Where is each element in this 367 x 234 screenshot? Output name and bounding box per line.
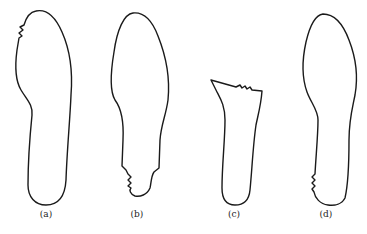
insole-outline-d xyxy=(303,14,356,205)
panel-label-b: (b) xyxy=(131,209,144,219)
insole-outline-b xyxy=(111,13,168,196)
insole-outline-c xyxy=(211,80,262,205)
panel-label-a: (a) xyxy=(40,209,52,219)
insole-outline-a xyxy=(16,11,72,205)
figure-canvas xyxy=(0,0,367,234)
panel-label-c: (c) xyxy=(228,209,240,219)
panel-label-d: (d) xyxy=(320,209,333,219)
